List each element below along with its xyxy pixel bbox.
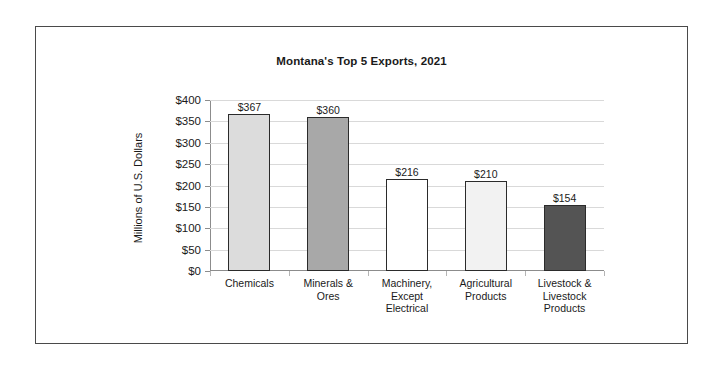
x-axis-category-label: Minerals & Ores	[289, 277, 368, 302]
y-axis-tick-label: $0	[188, 265, 201, 277]
x-axis-tick	[289, 271, 290, 276]
bar-value-label: $210	[474, 168, 497, 180]
y-axis-tick-label: $400	[175, 94, 201, 106]
bar-value-label: $154	[553, 192, 576, 204]
y-axis-tick	[205, 121, 210, 122]
x-axis-category-label: Machinery, Except Electrical	[368, 277, 447, 315]
x-axis-category-label: Chemicals	[210, 277, 289, 290]
x-axis-category-label: Agricultural Products	[446, 277, 525, 302]
y-axis-tick-label: $200	[175, 180, 201, 192]
y-axis-tick-label: $350	[175, 115, 201, 127]
y-axis-tick-label: $300	[175, 137, 201, 149]
x-axis-tick	[368, 271, 369, 276]
bar[interactable]: $360	[307, 117, 349, 271]
y-axis-tick	[205, 207, 210, 208]
y-axis-tick-label: $50	[182, 244, 201, 256]
bar-value-label: $367	[238, 101, 261, 113]
y-axis-title-text: Millions of U.S. Dollars	[132, 132, 144, 243]
bar[interactable]: $154	[544, 205, 586, 271]
gridline	[210, 100, 604, 101]
chart-title: Montana's Top 5 Exports, 2021	[36, 55, 687, 67]
y-axis-title: Millions of U.S. Dollars	[129, 100, 147, 275]
x-axis-category-label: Livestock & Livestock Products	[525, 277, 604, 315]
x-axis-tick	[604, 271, 605, 276]
chart-figure-frame: Montana's Top 5 Exports, 2021 Millions o…	[35, 26, 688, 344]
y-axis-tick	[205, 164, 210, 165]
x-axis-tick	[525, 271, 526, 276]
bar-value-label: $216	[395, 166, 418, 178]
y-axis-tick	[205, 228, 210, 229]
y-axis-tick	[205, 143, 210, 144]
y-axis-tick-label: $150	[175, 201, 201, 213]
bar[interactable]: $210	[465, 181, 507, 271]
x-axis-tick	[210, 271, 211, 276]
y-axis-tick-label: $250	[175, 158, 201, 170]
bar[interactable]: $216	[386, 179, 428, 271]
x-axis-tick	[446, 271, 447, 276]
y-axis-tick	[205, 250, 210, 251]
plot-area: $400$350$300$250$200$150$100$50$0 $367Ch…	[210, 100, 604, 271]
bar-value-label: $360	[317, 104, 340, 116]
y-axis-tick	[205, 186, 210, 187]
y-axis-tick-label: $100	[175, 222, 201, 234]
y-axis-tick	[205, 100, 210, 101]
bar[interactable]: $367	[228, 114, 270, 271]
